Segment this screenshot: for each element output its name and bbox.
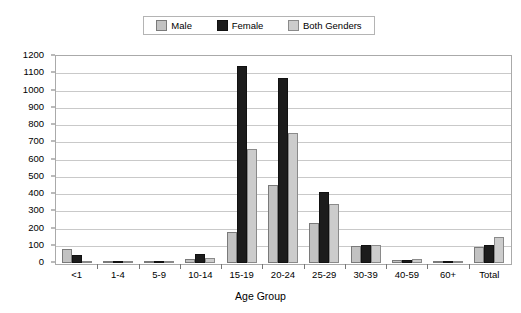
x-axis-title: Age Group (0, 290, 521, 302)
bar-group (262, 56, 303, 263)
bar-group (427, 56, 468, 263)
bar-female[interactable] (113, 261, 123, 263)
bar-both-genders[interactable] (247, 149, 257, 263)
bar-female[interactable] (402, 260, 412, 263)
bar-both-genders[interactable] (164, 261, 174, 263)
bar-male[interactable] (103, 261, 113, 263)
bar-both-genders[interactable] (288, 133, 298, 263)
x-tick-mark (386, 264, 387, 269)
bar-group (304, 56, 345, 263)
y-axis-tick-marks (0, 55, 55, 263)
bar-female[interactable] (195, 254, 205, 263)
x-tick-label: 1-4 (111, 270, 125, 280)
bar-male[interactable] (351, 246, 361, 263)
x-tick-label: 5-9 (152, 270, 166, 280)
bar-group (221, 56, 262, 263)
bar-female[interactable] (484, 245, 494, 263)
legend-entry-female[interactable]: Female (217, 20, 264, 31)
bar-male[interactable] (474, 247, 484, 263)
bar-male[interactable] (227, 232, 237, 263)
bar-both-genders[interactable] (82, 261, 92, 263)
bar-male[interactable] (268, 185, 278, 263)
x-tick-label: Total (479, 270, 499, 280)
x-axis-labels: <11-45-910-1415-1920-2425-2930-3940-5960… (55, 270, 511, 286)
bar-male[interactable] (309, 223, 319, 263)
legend-entry-both-genders[interactable]: Both Genders (288, 20, 362, 31)
bar-group (56, 56, 97, 263)
bar-female[interactable] (443, 261, 453, 263)
x-tick-mark (304, 264, 305, 269)
x-tick-label: 15-19 (230, 270, 254, 280)
bar-both-genders[interactable] (205, 258, 215, 263)
bar-male[interactable] (185, 259, 195, 263)
bar-both-genders[interactable] (123, 261, 133, 263)
legend-entry-male[interactable]: Male (156, 20, 192, 31)
x-tick-label: <1 (71, 270, 82, 280)
bar-group (97, 56, 138, 263)
bar-both-genders[interactable] (329, 204, 339, 263)
x-tick-mark (139, 264, 140, 269)
x-tick-label: 20-24 (271, 270, 295, 280)
bar-female[interactable] (319, 192, 329, 263)
bar-female[interactable] (361, 245, 371, 263)
x-tick-label: 10-14 (188, 270, 212, 280)
x-tick-mark (469, 264, 470, 269)
bar-male[interactable] (62, 249, 72, 263)
x-tick-mark (345, 264, 346, 269)
bar-group (386, 56, 427, 263)
bar-female[interactable] (154, 261, 164, 263)
bar-both-genders[interactable] (453, 261, 463, 263)
x-tick-label: 25-29 (312, 270, 336, 280)
bar-male[interactable] (144, 261, 154, 263)
x-tick-mark (180, 264, 181, 269)
bar-male[interactable] (433, 261, 443, 263)
chart-legend: MaleFemaleBoth Genders (143, 16, 375, 35)
bar-both-genders[interactable] (494, 237, 504, 263)
x-tick-mark (427, 264, 428, 269)
x-tick-mark (97, 264, 98, 269)
legend-label: Male (171, 21, 192, 31)
legend-label: Both Genders (303, 21, 362, 31)
bar-male[interactable] (392, 260, 402, 263)
legend-swatch-female-icon (217, 20, 228, 31)
bar-group (139, 56, 180, 263)
x-tick-mark (221, 264, 222, 269)
bar-group (345, 56, 386, 263)
legend-label: Female (232, 21, 264, 31)
legend-swatch-both-icon (288, 20, 299, 31)
bar-both-genders[interactable] (371, 245, 381, 263)
bars-layer (56, 56, 510, 263)
legend-swatch-male-icon (156, 20, 167, 31)
x-tick-label: 40-59 (395, 270, 419, 280)
bar-group (469, 56, 510, 263)
bar-group (180, 56, 221, 263)
x-tick-label: 60+ (440, 270, 456, 280)
bar-female[interactable] (237, 66, 247, 263)
bar-both-genders[interactable] (412, 259, 422, 263)
bar-female[interactable] (278, 78, 288, 263)
x-tick-mark (262, 264, 263, 269)
x-tick-label: 30-39 (353, 270, 377, 280)
bar-female[interactable] (72, 255, 82, 263)
